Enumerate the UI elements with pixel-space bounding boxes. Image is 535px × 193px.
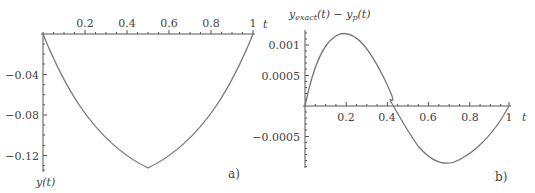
chart-a-ytick-0: −0.04 (5, 69, 39, 82)
chart-b-xtick-0: 0.2 (337, 111, 355, 124)
chart-b-ylabel: yexact(t) − yp(t) (288, 8, 371, 22)
chart-a-panel-label: a) (228, 167, 240, 181)
chart-a-ylabel: y(t) (35, 176, 55, 189)
chart-a-xlabel: t (263, 18, 268, 31)
chart-a-xtick-0: 0.2 (76, 17, 94, 30)
chart-b-x-ticks (315, 102, 509, 106)
chart-a-y-ticks (43, 44, 47, 170)
chart-b-xtick-2: 0.6 (419, 111, 437, 124)
chart-b-ytick-2: −0.0005 (252, 131, 300, 144)
chart-b-curve (305, 33, 509, 163)
chart-a-x-ticks (54, 30, 254, 34)
chart-b-xlabel: t (522, 111, 527, 124)
chart-b-ytick-0: 0.001 (269, 39, 301, 52)
chart-b-xtick-3: 0.8 (461, 111, 479, 124)
chart-a-xtick-1: 0.4 (118, 17, 136, 30)
chart-b-ytick-1: 0.0005 (262, 70, 301, 83)
chart-b: 0.2 0.4 0.6 0.8 1 t 0.001 0.0005 −0.0005… (252, 8, 527, 184)
chart-a-ytick-2: −0.12 (5, 150, 39, 163)
chart-a-xtick-2: 0.6 (160, 17, 178, 30)
chart-b-xtick-1: 0.4 (378, 111, 396, 124)
chart-a-xtick-4: 1 (250, 17, 257, 30)
chart-b-xtick-4: 1 (506, 111, 513, 124)
chart-a: 0.2 0.4 0.6 0.8 1 t −0.04 −0.08 −0.12 y(… (5, 17, 268, 189)
chart-a-ytick-1: −0.08 (5, 109, 39, 122)
chart-b-panel-label: b) (495, 170, 507, 184)
chart-a-xtick-3: 0.8 (202, 17, 220, 30)
figure: 0.2 0.4 0.6 0.8 1 t −0.04 −0.08 −0.12 y(… (0, 0, 535, 193)
chart-a-curve (43, 34, 253, 168)
